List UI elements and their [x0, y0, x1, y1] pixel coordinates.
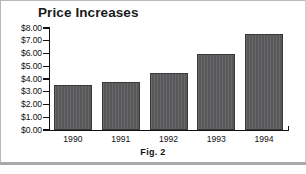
- bar-1990: [54, 85, 92, 130]
- figure-bottom-rule: [0, 162, 306, 165]
- y-axis-tick-label: $5.00: [21, 61, 42, 71]
- bar-1991: [102, 82, 140, 130]
- y-axis-tick-label: $4.00: [21, 74, 42, 84]
- figure-border-right: [305, 0, 306, 162]
- bar-1994: [245, 34, 283, 130]
- y-axis-tick-label: $1.00: [21, 112, 42, 122]
- y-axis-tick-label: $0.00: [21, 125, 42, 135]
- plot-area: [49, 28, 288, 130]
- x-axis-tick-label: 1994: [240, 134, 288, 144]
- x-axis-tick-label: 1993: [192, 134, 240, 144]
- y-axis-tick-label: $2.00: [21, 99, 42, 109]
- x-axis-tick-label: 1990: [49, 134, 97, 144]
- x-axis-end-tick: [288, 126, 289, 131]
- figure-caption: Fig. 2: [0, 147, 306, 157]
- chart-title: Price Increases: [38, 5, 139, 20]
- y-axis-tick-label: $7.00: [21, 35, 42, 45]
- figure-border-top: [0, 0, 306, 1]
- x-axis-tick-label: 1992: [145, 134, 193, 144]
- y-axis-tick-label: $8.00: [21, 23, 42, 33]
- figure-border-left: [0, 0, 1, 162]
- x-axis-line: [49, 130, 289, 131]
- figure-container: Price Increases $8.00$7.00$6.00$5.00$4.0…: [0, 0, 306, 174]
- y-axis-tick-label: $3.00: [21, 86, 42, 96]
- x-axis-tick-label: 1991: [97, 134, 145, 144]
- y-axis-tick-label: $6.00: [21, 48, 42, 58]
- bar-1992: [150, 73, 188, 130]
- bar-1993: [197, 54, 235, 131]
